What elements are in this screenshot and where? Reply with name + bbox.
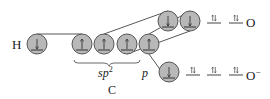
oxygen-bottom-lone-pair-2-icon: [207, 67, 221, 75]
hydrogen-1s-orbital-icon: [27, 34, 47, 54]
oxygen-bottom-lone-pair-3-icon: [229, 67, 243, 75]
carbon-sp2-orbital-1-icon: [72, 34, 92, 54]
hydrogen-label: H: [12, 37, 21, 52]
oxygen-top-bonding-orbital-2-icon: [180, 11, 200, 31]
sp2-label: sp2: [98, 65, 113, 80]
carbon-sp2-orbital-2-icon: [94, 34, 114, 54]
oxygen-top-lone-pair-2-icon: [229, 15, 243, 23]
oxygen-top-label: O: [246, 15, 255, 30]
p-orbital-label: p: [141, 66, 148, 80]
oxygen-bottom-bonding-orbital-icon: [159, 62, 179, 82]
carbon-p-orbital-icon: [139, 34, 159, 54]
orbital-diagram: H O O− sp2 p C: [0, 0, 270, 99]
carbon-label: C: [108, 83, 116, 97]
oxygen-bottom-label: O−: [246, 67, 260, 83]
oxygen-bottom-lone-pair-1-icon: [186, 67, 200, 75]
orbital-diagram-svg: H O O− sp2 p C: [0, 0, 270, 99]
carbon-sp2-orbital-3-icon: [117, 34, 137, 54]
oxygen-top-bonding-orbital-1-icon: [158, 11, 178, 31]
oxygen-top-lone-pair-1-icon: [207, 15, 221, 23]
